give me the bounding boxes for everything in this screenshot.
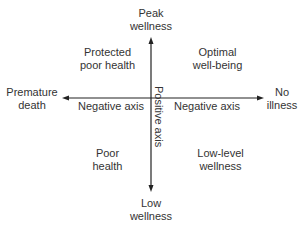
quadrant-top-right: Optimal well-being	[180, 46, 255, 72]
axis-top-label: Peak wellness	[121, 7, 181, 33]
quadrant-bottom-right: Low-level wellness	[183, 147, 258, 173]
axis-bottom-label: Low wellness	[121, 197, 181, 223]
quadrant-top-left: Protected poor health	[70, 46, 145, 72]
positive-axis-label: Positive axis	[152, 86, 165, 147]
negative-axis-right-label: Negative axis	[172, 100, 242, 113]
axis-right-label: No illness	[262, 86, 302, 112]
quadrant-bottom-left: Poor health	[80, 147, 135, 173]
axes-graphic	[0, 0, 302, 226]
negative-axis-left-label: Negative axis	[76, 100, 146, 113]
arrow-left-icon	[62, 96, 69, 101]
arrow-down-icon	[149, 185, 154, 192]
axis-left-label: Premature death	[2, 86, 62, 112]
arrow-up-icon	[149, 37, 154, 44]
